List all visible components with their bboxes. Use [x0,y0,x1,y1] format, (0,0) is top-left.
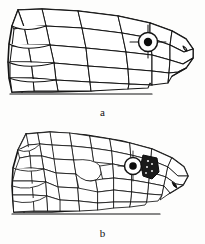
reptile-head-drawing-a [0,0,205,104]
pupil-b [129,162,137,170]
panel-caption-b: b [0,228,205,239]
figure-panel-b: b [0,122,205,244]
panel-caption-a: a [0,107,205,118]
dark-postocular-scale-b [141,155,159,179]
reptile-head-drawing-b [0,122,205,226]
figure-panel-a: a [0,0,205,122]
figure-root: a [0,0,205,244]
pupil-a [144,38,152,46]
